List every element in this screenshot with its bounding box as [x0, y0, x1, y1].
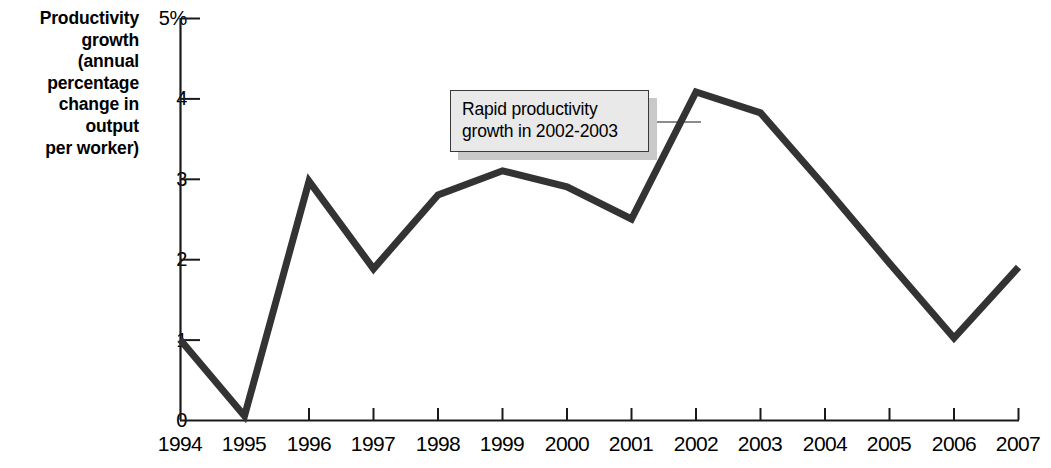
y-axis-ticks: [181, 19, 200, 341]
productivity-growth-line-chart: Productivity growth (annual percentage c…: [0, 0, 1051, 468]
x-axis-ticks: [245, 408, 1019, 420]
annotation-callout-box: Rapid productivity growth in 2002-2003: [450, 90, 649, 152]
plot-area: [0, 0, 1051, 468]
